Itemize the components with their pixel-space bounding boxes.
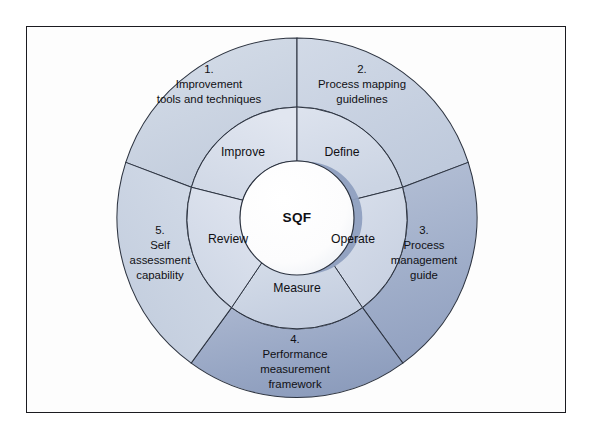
figure-root: SQF Define Operate Measure Review Improv… bbox=[0, 0, 591, 440]
outer-label-5-line3: capability bbox=[136, 269, 184, 281]
inner-label-measure: Measure bbox=[273, 281, 321, 295]
outer-label-3-number: 3. bbox=[419, 224, 429, 236]
outer-label-5-line1: Self bbox=[150, 239, 170, 251]
outer-label-4-line1: Performance bbox=[262, 348, 327, 360]
outer-label-4-number: 4. bbox=[290, 333, 300, 345]
hub-label: SQF bbox=[282, 210, 311, 225]
outer-label-4-line2: measurement bbox=[260, 363, 330, 375]
outer-label-5-line2: assessment bbox=[130, 254, 192, 266]
inner-label-improve: Improve bbox=[221, 145, 265, 159]
outer-label-2-line1: Process mapping bbox=[318, 78, 406, 90]
outer-label-1-line2: tools and techniques bbox=[157, 93, 262, 105]
inner-label-define: Define bbox=[324, 145, 359, 159]
outer-label-5-number: 5. bbox=[155, 224, 165, 236]
inner-label-operate: Operate bbox=[331, 232, 375, 246]
inner-label-review: Review bbox=[208, 232, 248, 246]
outer-label-2-number: 2. bbox=[357, 63, 367, 75]
outer-label-1-number: 1. bbox=[204, 63, 214, 75]
outer-label-2-line2: guidelines bbox=[336, 93, 388, 105]
outer-label-1-line1: Improvement bbox=[176, 78, 243, 90]
outer-label-3-line3: guide bbox=[410, 269, 438, 281]
outer-label-3-line2: management bbox=[391, 254, 458, 266]
sqf-ring-diagram: SQF Define Operate Measure Review Improv… bbox=[0, 0, 591, 440]
outer-label-3-line1: Process bbox=[403, 239, 444, 251]
outer-label-4-line3: framework bbox=[268, 378, 321, 390]
